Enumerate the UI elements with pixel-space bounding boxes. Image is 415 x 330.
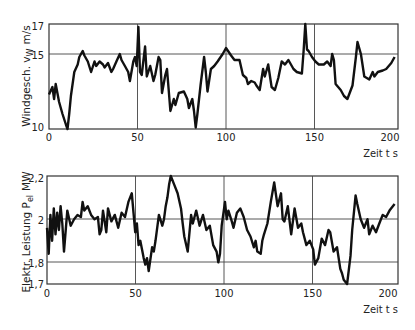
plot-frame [49, 24, 398, 129]
y-tick-labels: 17 15 10 [31, 20, 44, 134]
y-axis-label-unit: MW [20, 171, 32, 191]
x-tick-label: 100 [215, 287, 234, 300]
x-axis-label: Zeit t s [363, 147, 398, 160]
x-tick-label: 150 [305, 131, 324, 144]
gridlines [49, 24, 398, 129]
power-chart: 2,2 2 1,8 1,7 0 50 100 150 200 Zeit t s … [20, 171, 398, 316]
y-axis-label-sub: el [26, 195, 35, 202]
y-axis-label-main: Elektr. Leistung P [20, 202, 32, 293]
x-tick-label: 0 [44, 287, 50, 300]
x-tick-label: 50 [129, 287, 142, 300]
y-axis-label-sub: W [26, 48, 35, 56]
y-tick-label: 17 [31, 20, 44, 33]
y-axis-label-main: Windgesch. v [20, 56, 32, 126]
x-tick-label: 200 [381, 131, 400, 144]
wind-speed-trace [49, 24, 395, 129]
x-tick-label: 50 [131, 131, 144, 144]
y-axis-label: Windgesch. vWm/s [20, 25, 35, 126]
x-axis-label: Zeit t s [363, 303, 398, 316]
y-tick-label: 10 [31, 121, 44, 134]
y-tick-label: 2 [38, 214, 44, 227]
power-trace [47, 176, 395, 284]
x-tick-label: 100 [217, 131, 236, 144]
x-tick-label: 0 [46, 131, 52, 144]
x-tick-labels: 0 50 100 150 200 [44, 287, 398, 300]
figure: 17 15 10 0 50 100 150 200 Zeit t s Windg… [0, 0, 415, 330]
y-axis-label-unit: m/s [20, 25, 32, 44]
wind-speed-chart: 17 15 10 0 50 100 150 200 Zeit t s Windg… [20, 20, 399, 160]
x-tick-label: 200 [379, 287, 398, 300]
x-tick-labels: 0 50 100 150 200 [46, 131, 400, 144]
x-tick-label: 150 [303, 287, 322, 300]
y-axis-label: Elektr. Leistung PelMW [20, 171, 35, 293]
